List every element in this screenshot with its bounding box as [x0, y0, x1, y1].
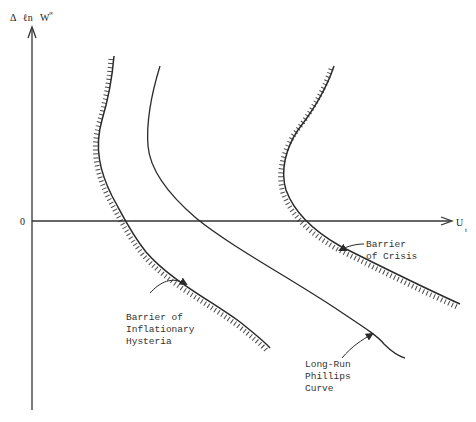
- y-axis-label-sup: ∞: [49, 10, 53, 16]
- barrier-of-crisis-curve: [281, 66, 460, 307]
- barrier-inflationary-hysteria-curve: [95, 56, 270, 351]
- origin-label: 0: [20, 216, 25, 227]
- label-line: of Crisis: [366, 251, 417, 262]
- label-line: Phillips: [305, 371, 351, 382]
- label-long-run-phillips: Long-Run Phillips Curve: [305, 334, 372, 394]
- label-line: Hysteria: [126, 336, 172, 347]
- x-axis: U t 0: [20, 216, 467, 234]
- x-axis-label-sub: t: [465, 226, 467, 234]
- phillips-diagram: Δ ℓn W ∞ U t 0 Barrier of Inflationary H…: [0, 0, 476, 422]
- label-line: Inflationary: [126, 324, 195, 335]
- y-axis-label-delta: Δ: [10, 12, 17, 23]
- label-line: Barrier of: [126, 312, 183, 323]
- long-run-phillips-curve: [148, 66, 405, 358]
- label-line: Long-Run: [305, 359, 351, 370]
- label-arrow-icon: [342, 334, 372, 358]
- x-axis-label: U: [456, 217, 464, 228]
- y-axis: Δ ℓn W ∞: [10, 10, 53, 410]
- label-line: Curve: [305, 383, 334, 394]
- label-line: Barrier: [366, 239, 406, 250]
- y-axis-label-ln: ℓn: [23, 12, 33, 23]
- label-barrier-of-crisis: Barrier of Crisis: [340, 239, 417, 262]
